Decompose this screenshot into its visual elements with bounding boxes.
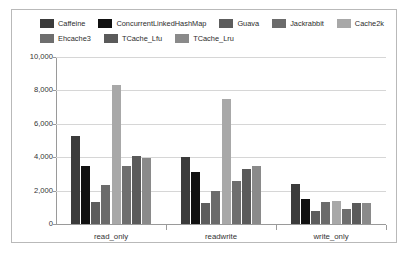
- legend-swatch-icon: [98, 19, 112, 28]
- y-axis-tick-label: 2,000: [15, 186, 53, 195]
- y-axis-tick-label: 8,000: [15, 85, 53, 94]
- legend-label: TCache_Lru: [193, 34, 234, 43]
- chart-legend: CaffeineConcurrentLinkedHashMapGuavaJack…: [12, 16, 396, 46]
- legend-label: ConcurrentLinkedHashMap: [116, 19, 206, 28]
- bar[interactable]: [211, 191, 220, 224]
- bar-group-readwrite: [166, 57, 276, 224]
- legend-item-caffeine[interactable]: Caffeine: [40, 19, 85, 28]
- legend-item-cache2k[interactable]: Cache2k: [337, 19, 384, 28]
- legend-item-guava[interactable]: Guava: [219, 19, 259, 28]
- bar[interactable]: [181, 157, 190, 224]
- bar[interactable]: [362, 203, 371, 224]
- bar[interactable]: [142, 158, 151, 224]
- bar[interactable]: [242, 169, 251, 224]
- legend-swatch-icon: [104, 34, 118, 43]
- x-axis-separator: [166, 225, 167, 230]
- bar[interactable]: [222, 99, 231, 224]
- x-axis-labels: read_onlyreadwritewrite_only: [56, 232, 386, 241]
- bar[interactable]: [321, 202, 330, 224]
- legend-swatch-icon: [40, 19, 54, 28]
- bar-group-read-only: [56, 57, 166, 224]
- x-axis-separator: [386, 225, 387, 230]
- legend-item-concurrentlinkedhashmap[interactable]: ConcurrentLinkedHashMap: [98, 19, 206, 28]
- legend-item-jackrabbit[interactable]: Jackrabbit: [272, 19, 324, 28]
- bar[interactable]: [122, 166, 131, 224]
- legend-swatch-icon: [175, 34, 189, 43]
- bar[interactable]: [291, 184, 300, 224]
- y-axis-tick-label: 6,000: [15, 119, 53, 128]
- bar[interactable]: [132, 156, 141, 224]
- legend-swatch-icon: [40, 34, 54, 43]
- legend-label: Caffeine: [58, 19, 85, 28]
- legend-label: Ehcache3: [58, 34, 91, 43]
- bar[interactable]: [191, 172, 200, 224]
- legend-label: Cache2k: [355, 19, 384, 28]
- legend-item-ehcache3[interactable]: Ehcache3: [40, 34, 91, 43]
- legend-swatch-icon: [219, 19, 233, 28]
- bar-group-write-only: [276, 57, 386, 224]
- chart-container: CaffeineConcurrentLinkedHashMapGuavaJack…: [11, 9, 397, 243]
- bar-groups: [56, 57, 386, 224]
- legend-swatch-icon: [337, 19, 351, 28]
- bar[interactable]: [101, 185, 110, 224]
- bar[interactable]: [311, 211, 320, 224]
- x-axis-tick-label: readwrite: [166, 232, 276, 241]
- bar[interactable]: [352, 203, 361, 224]
- bar[interactable]: [201, 203, 210, 224]
- y-axis-tick-label: 4,000: [15, 152, 53, 161]
- legend-row-2: Ehcache3TCache_LfuTCache_Lru: [40, 31, 390, 46]
- legend-label: TCache_Lfu: [122, 34, 162, 43]
- legend-item-tcache-lfu[interactable]: TCache_Lfu: [104, 34, 162, 43]
- bar[interactable]: [252, 166, 261, 224]
- bar[interactable]: [112, 85, 121, 224]
- legend-swatch-icon: [272, 19, 286, 28]
- x-axis-tick-label: write_only: [276, 232, 386, 241]
- legend-label: Guava: [237, 19, 259, 28]
- bar[interactable]: [301, 199, 310, 224]
- bar[interactable]: [91, 202, 100, 224]
- y-axis-labels: 02,0004,0006,0008,00010,000: [12, 57, 53, 224]
- bar[interactable]: [81, 166, 90, 224]
- bar[interactable]: [342, 209, 351, 224]
- y-axis-tick-label: 10,000: [15, 52, 53, 61]
- legend-item-tcache-lru[interactable]: TCache_Lru: [175, 34, 234, 43]
- x-axis-line: [56, 224, 386, 225]
- bar[interactable]: [71, 136, 80, 224]
- bar[interactable]: [332, 201, 341, 224]
- y-axis-tick-label: 0: [15, 219, 53, 228]
- bar[interactable]: [232, 181, 241, 224]
- x-axis-separator: [276, 225, 277, 230]
- x-axis-tick-label: read_only: [56, 232, 166, 241]
- legend-label: Jackrabbit: [290, 19, 324, 28]
- legend-row-1: CaffeineConcurrentLinkedHashMapGuavaJack…: [40, 16, 390, 31]
